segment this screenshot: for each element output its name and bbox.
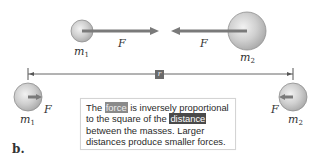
top-force2-label: F xyxy=(200,38,208,49)
top-mass2-label: m2 xyxy=(240,52,255,65)
bottom-force1-label: F xyxy=(44,104,52,115)
top-force1-arrow xyxy=(82,27,159,35)
caption-text-part3: between the masses. Larger distances pro… xyxy=(86,125,226,147)
caption-highlight-force: force xyxy=(105,102,128,113)
caption-text-part1: The xyxy=(86,102,105,113)
bottom-force2-label: F xyxy=(271,104,279,115)
panel-label: b. xyxy=(12,142,25,156)
bottom-mass1-label: m1 xyxy=(20,114,35,127)
bottom-mass2-label: m2 xyxy=(288,114,303,127)
caption-box: The force is inversely proportional to t… xyxy=(80,98,236,150)
distance-r-label: r xyxy=(155,70,164,79)
top-force1-label: F xyxy=(118,38,126,49)
top-mass1-label: m1 xyxy=(74,46,89,59)
caption-highlight-distance: distance xyxy=(169,113,206,124)
